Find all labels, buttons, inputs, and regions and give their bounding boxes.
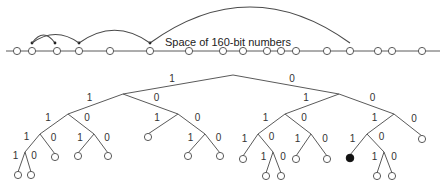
leaf-node	[323, 155, 330, 162]
node-id-circle	[418, 47, 425, 54]
tree-edge	[285, 94, 339, 114]
edge-bit-label: 0	[31, 150, 37, 161]
node-id-circle	[388, 47, 395, 54]
tree-edge	[123, 94, 178, 114]
edge-bit-label: 1	[303, 92, 309, 103]
tree-edge	[266, 152, 273, 173]
edge-bit-label: 1	[13, 150, 19, 161]
edge-bit-label: 1	[24, 131, 30, 142]
leaf-node	[51, 153, 58, 160]
binary-trie: 10101010101010101010101010101010	[13, 73, 426, 180]
node-id-circle	[106, 47, 113, 54]
edge-bit-label: 0	[84, 112, 90, 123]
node-id-circle	[346, 47, 353, 54]
edge-bit-label: 0	[154, 92, 160, 103]
edge-bit-label: 1	[263, 112, 269, 123]
arrow-head-icon	[54, 42, 57, 45]
edge-bit-label: 1	[372, 112, 378, 123]
leaf-node	[144, 133, 151, 140]
leaf-node	[27, 171, 34, 178]
tree-edge	[18, 152, 25, 172]
edge-bit-label: 1	[45, 112, 51, 123]
leaf-node	[74, 152, 81, 159]
edge-bit-label: 1	[242, 133, 248, 144]
leaf-node	[239, 155, 246, 162]
edge-bit-label: 0	[289, 73, 295, 84]
edge-bit-label: 0	[216, 132, 222, 143]
leaf-node	[262, 172, 269, 179]
node-id-circle	[277, 47, 284, 54]
tree-edge	[285, 114, 311, 134]
node-id-circle	[239, 47, 246, 54]
edge-bit-label: 0	[104, 132, 110, 143]
tree-edge	[148, 114, 178, 134]
node-id-circle	[292, 47, 299, 54]
edge-bit-label: 1	[169, 73, 175, 84]
tree-edge	[339, 94, 394, 114]
node-id-circle	[28, 47, 35, 54]
edge-bit-label: 0	[322, 133, 328, 144]
edge-bit-label: 0	[370, 92, 376, 103]
tree-edge	[25, 152, 31, 172]
jump-arc	[79, 30, 150, 43]
number-line	[6, 47, 440, 54]
node-id-circle	[185, 47, 192, 54]
node-id-circle	[323, 47, 330, 54]
edge-bit-label: 0	[195, 112, 201, 123]
leaf-node	[292, 155, 299, 162]
node-id-circle	[263, 47, 270, 54]
edge-bit-label: 1	[295, 133, 301, 144]
leaf-node	[104, 152, 111, 159]
edge-bit-label: 0	[391, 151, 397, 162]
edge-bit-label: 1	[77, 132, 83, 143]
leaf-node	[216, 152, 223, 159]
leaf-node	[277, 172, 284, 179]
kademlia-diagram: Space of 160-bit numbers 101010101010101…	[0, 0, 447, 190]
node-id-circle	[146, 47, 153, 54]
edge-bit-label: 0	[411, 113, 417, 124]
self-node	[346, 154, 354, 162]
tree-edge	[377, 152, 384, 173]
edge-bit-label: 0	[301, 112, 307, 123]
leaf-node	[14, 171, 21, 178]
tree-edge	[123, 75, 233, 94]
node-id-circle	[219, 47, 226, 54]
node-id-circle	[13, 47, 20, 54]
edge-bit-label: 1	[261, 151, 267, 162]
node-id-circle	[374, 47, 381, 54]
node-id-circle	[75, 47, 82, 54]
leaf-node	[373, 172, 380, 179]
edge-bit-label: 1	[188, 132, 194, 143]
edge-bit-label: 1	[87, 92, 93, 103]
tree-edge	[394, 114, 422, 136]
edge-bit-label: 0	[379, 131, 385, 142]
tree-edge	[68, 94, 123, 114]
leaf-node	[184, 152, 191, 159]
edge-bit-label: 0	[269, 131, 275, 142]
edge-bit-label: 0	[280, 151, 286, 162]
edge-bit-label: 1	[350, 133, 356, 144]
edge-bit-label: 0	[51, 132, 57, 143]
tree-edge	[40, 114, 68, 134]
tree-edge	[233, 75, 339, 94]
node-id-circle	[53, 47, 60, 54]
leaf-node	[418, 135, 425, 142]
space-label: Space of 160-bit numbers	[165, 36, 291, 48]
leaf-node	[388, 172, 395, 179]
edge-bit-label: 1	[154, 112, 160, 123]
edge-bit-label: 1	[372, 151, 378, 162]
